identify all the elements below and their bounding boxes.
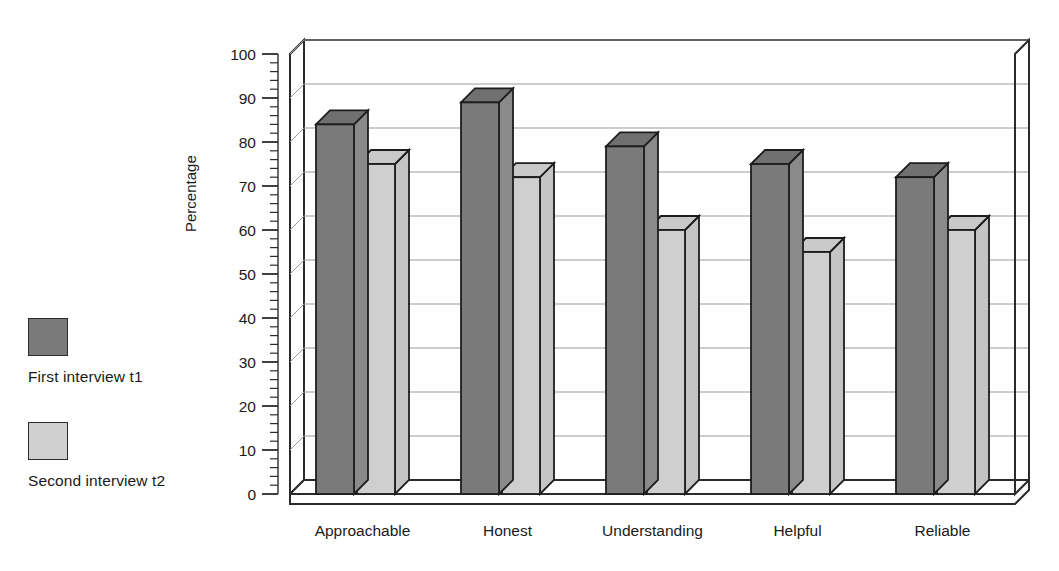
bar-side-face (499, 88, 513, 494)
chart-plot-area: 0102030405060708090100ApproachableHonest… (0, 0, 1059, 571)
bar-side-face (934, 163, 948, 494)
x-axis-category-label: Honest (483, 522, 533, 539)
bar-side-face (975, 216, 989, 494)
x-axis-category-label: Approachable (315, 522, 411, 539)
bar-series1 (751, 150, 803, 494)
y-axis-tick-label: 80 (239, 134, 257, 151)
y-axis-tick-label: 20 (239, 398, 257, 415)
bar-side-face (354, 110, 368, 494)
y-axis-tick-label: 40 (239, 310, 257, 327)
y-axis-tick-label: 100 (230, 46, 256, 63)
bar-series1 (606, 132, 658, 494)
bar-front-face (751, 164, 789, 494)
y-axis-tick-label: 10 (239, 442, 257, 459)
bar-side-face (540, 163, 554, 494)
bar-front-face (606, 146, 644, 494)
y-axis-tick-label: 30 (239, 354, 257, 371)
bar-side-face (644, 132, 658, 494)
bar-side-face (830, 238, 844, 494)
bar-side-face (395, 150, 409, 494)
y-axis-tick-label: 0 (247, 486, 256, 503)
x-axis-category-label: Helpful (773, 522, 821, 539)
bar-series1 (316, 110, 368, 494)
bar-side-face (685, 216, 699, 494)
y-axis-tick-label: 70 (239, 178, 257, 195)
y-axis-tick-label: 90 (239, 90, 257, 107)
bar-series1 (461, 88, 513, 494)
bar-front-face (896, 177, 934, 494)
bar-front-face (461, 102, 499, 494)
x-axis-category-label: Understanding (602, 522, 703, 539)
chart-figure: First interview t1 Second interview t2 P… (0, 0, 1059, 571)
bar-front-face (316, 124, 354, 494)
y-axis-tick-label: 60 (239, 222, 257, 239)
y-axis-tick-label: 50 (239, 266, 257, 283)
bar-side-face (789, 150, 803, 494)
bar-series1 (896, 163, 948, 494)
x-axis-category-label: Reliable (914, 522, 970, 539)
